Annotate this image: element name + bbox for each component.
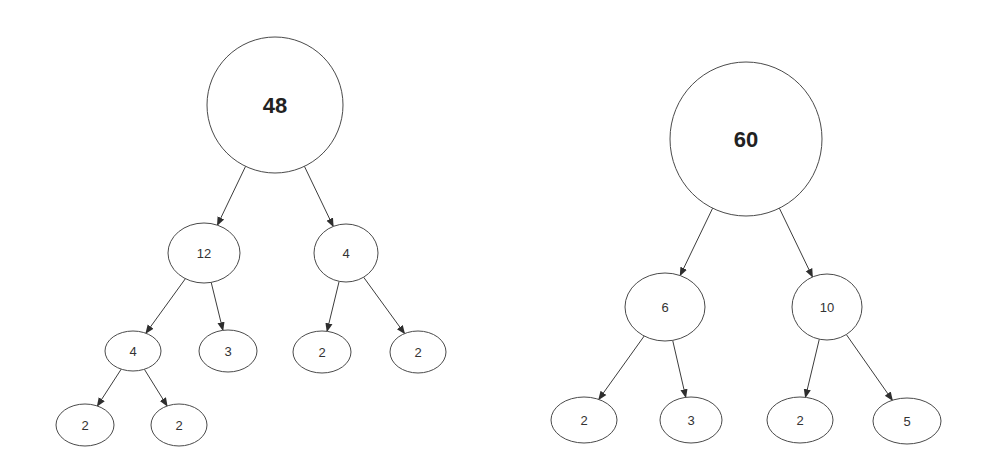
node-label: 3 [687,413,694,428]
arrow-edge [146,279,186,334]
node-label: 10 [820,300,834,315]
factor-node: 12 [168,223,240,283]
factor-node: 2 [56,404,114,446]
factor-node: 4 [314,224,378,282]
node-label: 2 [580,413,587,428]
node-label: 2 [414,345,421,360]
node-label: 2 [796,413,803,428]
arrow-edge [97,369,121,406]
arrow-edge [364,277,405,333]
node-label: 4 [342,246,349,261]
factor-node: 5 [873,398,941,444]
factor-node: 2 [390,331,446,373]
factor-node: 6 [625,273,705,341]
node-label: 3 [224,344,231,359]
factor-node: 2 [293,331,351,373]
arrow-edge [846,335,892,401]
arrow-edge [673,340,686,397]
factor-tree-diagram: 48124432222606102325 [0,0,989,473]
node-label: 2 [175,418,182,433]
arrow-edge [327,281,339,331]
factor-node: 10 [792,274,862,340]
arrow-edge [805,339,819,397]
factor-node: 3 [199,330,257,372]
root-node: 48 [207,37,343,173]
arrow-edge [779,208,812,277]
arrow-edge [144,369,167,406]
factor-node: 3 [660,397,722,443]
factor-tree-48: 48124432222 [56,37,446,446]
node-label: 5 [903,414,910,429]
factor-node: 2 [151,404,207,446]
factor-node: 2 [551,397,617,443]
node-label: 4 [129,344,136,359]
node-label: 60 [734,127,758,152]
node-label: 6 [661,300,668,315]
factor-node: 4 [105,331,161,371]
arrow-edge [211,282,223,330]
arrow-edge [217,166,245,225]
node-label: 48 [263,93,287,118]
node-label: 2 [81,418,88,433]
arrow-edge [680,208,712,275]
root-node: 60 [670,62,822,216]
factor-node: 2 [767,397,833,443]
arrow-edge [599,336,644,399]
arrow-edge [304,166,333,226]
node-label: 2 [318,345,325,360]
node-label: 12 [197,246,211,261]
